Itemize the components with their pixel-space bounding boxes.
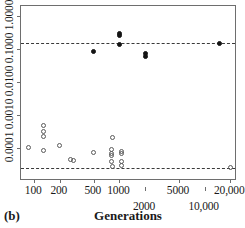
data-point [110,164,115,169]
data-point [41,134,46,139]
x-axis-title: Generations [20,209,236,222]
x-axis-tick-label: 500 [84,185,101,197]
x-axis-tick [230,179,231,183]
x-axis-tick-label: 100 [25,185,42,197]
data-point [91,49,96,54]
y-axis-tick-label: 0.0100 [4,66,16,96]
y-axis-tick [17,82,21,83]
data-point [143,54,148,59]
y-axis-tick-label: 0.1000 [4,33,16,63]
x-axis-tick-label: 20,000 [214,185,244,197]
y-axis-tick [17,115,21,116]
y-axis-tick [17,148,21,149]
data-point [119,163,124,168]
x-axis-tick-label: 5000 [167,185,189,197]
data-point [117,42,122,47]
x-axis-tick [119,179,120,183]
y-axis-tick [17,49,21,50]
data-point [26,145,31,150]
x-axis-tick [179,179,180,183]
x-axis-tick [60,179,61,183]
data-point [91,150,96,155]
y-axis-tick [17,16,21,17]
data-point [117,33,122,38]
data-point [71,158,76,163]
data-point [110,135,115,140]
reference-line-lower-threshold [21,168,235,169]
data-point [41,129,46,134]
data-point [228,165,233,170]
data-point [119,151,124,156]
data-point [217,41,222,46]
reference-line-upper-threshold [21,43,235,44]
plot-area [20,5,236,180]
data-point [41,123,46,128]
x-axis-tick-label: 1000 [107,185,129,197]
data-point [57,143,62,148]
x-axis-tick [94,179,95,183]
panel-label: (b) [4,209,20,222]
x-axis-tick [34,179,35,183]
scatter-plot-figure: 0.00010.00100.01000.10001.0000 100200500… [0,0,245,228]
x-axis-tick-label: 200 [51,185,68,197]
y-axis-tick-label: 0.0001 [4,132,16,162]
data-point [109,153,114,158]
y-axis-tick-labels: 0.00010.00100.01000.10001.0000 [0,0,20,182]
y-axis-tick-label: 1.0000 [4,0,16,30]
y-axis-tick-label: 0.0010 [4,99,16,129]
data-point [41,148,46,153]
